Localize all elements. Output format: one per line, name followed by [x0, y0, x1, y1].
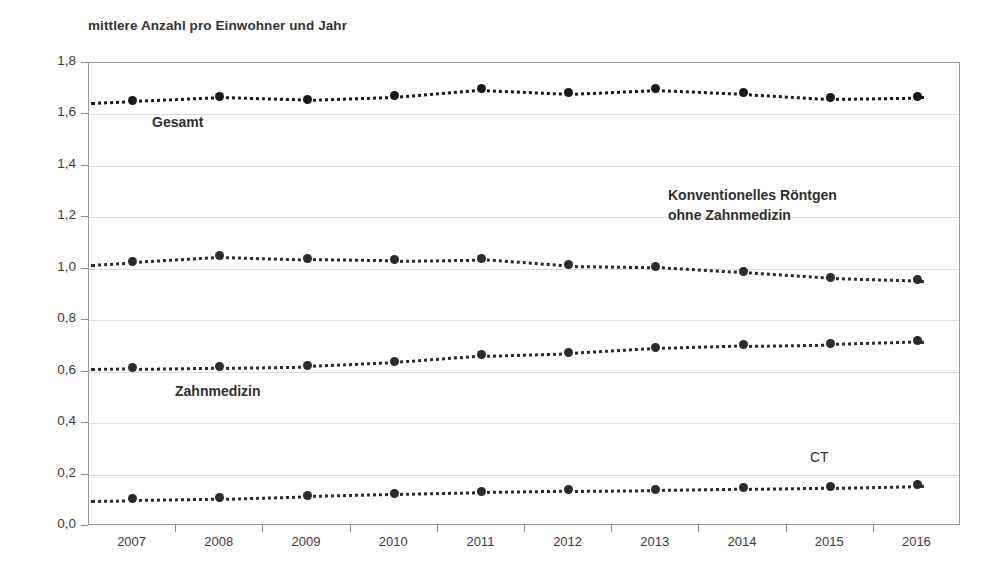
series-line-segment: [743, 487, 830, 491]
data-point: [826, 273, 835, 282]
data-point: [739, 340, 748, 349]
data-point: [913, 92, 922, 101]
series-line-segment: [830, 485, 917, 490]
series-line-segment: [91, 499, 133, 503]
data-point: [303, 254, 312, 263]
x-axis-tick-label: 2009: [266, 534, 346, 549]
y-axis-tick-mark: [81, 165, 88, 166]
series-line-segment: [830, 96, 917, 100]
y-axis-tick-mark: [81, 525, 88, 526]
series-line-segment: [830, 341, 917, 347]
series-line-segment: [481, 352, 568, 358]
series-line-segment: [917, 96, 923, 99]
data-point: [564, 88, 573, 97]
series-line-segment: [481, 258, 568, 267]
series-line-segment: [133, 367, 220, 371]
gridline: [89, 114, 959, 115]
data-point: [651, 485, 660, 494]
data-point: [826, 482, 835, 491]
series-line-segment: [133, 96, 220, 103]
data-point: [913, 480, 922, 489]
y-axis-tick-mark: [81, 422, 88, 423]
series-line-segment: [569, 89, 656, 96]
y-axis-tick-mark: [81, 474, 88, 475]
data-point: [390, 91, 399, 100]
gridline: [89, 475, 959, 476]
y-axis-tick-mark: [81, 62, 88, 63]
data-point: [913, 336, 922, 345]
data-point: [303, 361, 312, 370]
y-axis-tick-label: 1,2: [22, 207, 76, 222]
x-axis-tick-mark: [262, 525, 263, 532]
series-line-segment: [917, 485, 923, 488]
data-point: [128, 257, 137, 266]
data-point: [215, 362, 224, 371]
series-line-segment: [656, 266, 743, 274]
x-axis-tick-label: 2013: [615, 534, 695, 549]
data-point: [564, 485, 573, 494]
data-point: [215, 493, 224, 502]
plot-area: [88, 62, 960, 525]
x-axis-tick-label: 2010: [353, 534, 433, 549]
series-line-segment: [569, 489, 656, 493]
series-line-segment: [743, 271, 830, 280]
gridline: [89, 372, 959, 373]
data-point: [128, 494, 137, 503]
series-line-segment: [656, 488, 743, 492]
x-axis-tick-mark: [873, 525, 874, 532]
data-point: [739, 88, 748, 97]
series-line-segment: [656, 345, 743, 351]
x-axis-tick-mark: [350, 525, 351, 532]
series-line-segment: [307, 493, 394, 498]
series-line-segment: [917, 280, 923, 283]
data-point: [477, 350, 486, 359]
data-point: [826, 93, 835, 102]
series-line-segment: [830, 277, 917, 283]
y-axis-tick-mark: [81, 113, 88, 114]
series-line-segment: [220, 365, 307, 369]
data-point: [390, 357, 399, 366]
series-line-segment: [133, 498, 220, 502]
y-axis-tick-label: 0,2: [22, 465, 76, 480]
series-label-konventionelles-roentgen: Konventionelles Röntgen ohne Zahnmedizin: [668, 185, 837, 226]
x-axis-tick-mark: [524, 525, 525, 532]
series-line-segment: [307, 96, 394, 102]
data-point: [215, 92, 224, 101]
x-axis-tick-mark: [437, 525, 438, 532]
series-line-segment: [220, 256, 307, 262]
series-line-segment: [91, 100, 133, 105]
x-axis-tick-mark: [611, 525, 612, 532]
series-label-gesamt: Gesamt: [152, 112, 203, 132]
y-axis-tick-label: 0,6: [22, 362, 76, 377]
data-point: [739, 483, 748, 492]
y-axis-tick-label: 1,6: [22, 104, 76, 119]
series-line-segment: [917, 341, 923, 344]
chart-title: mittlere Anzahl pro Einwohner und Jahr: [88, 18, 347, 33]
gridline: [89, 166, 959, 167]
y-axis-tick-label: 1,0: [22, 259, 76, 274]
x-axis-tick-label: 2008: [179, 534, 259, 549]
x-axis-tick-mark: [175, 525, 176, 532]
x-axis-tick-label: 2015: [789, 534, 869, 549]
series-line-segment: [656, 89, 743, 96]
data-point: [651, 343, 660, 352]
data-point: [477, 487, 486, 496]
y-axis-tick-mark: [81, 371, 88, 372]
x-axis-tick-label: 2016: [876, 534, 956, 549]
x-axis-tick-label: 2012: [528, 534, 608, 549]
chart-container: mittlere Anzahl pro Einwohner und Jahr 0…: [0, 0, 1008, 582]
y-axis-tick-label: 1,4: [22, 156, 76, 171]
gridline: [89, 269, 959, 270]
series-line-segment: [394, 355, 481, 364]
x-axis-tick-mark: [698, 525, 699, 532]
x-axis-tick-label: 2007: [92, 534, 172, 549]
data-point: [215, 251, 224, 260]
series-line-segment: [481, 89, 568, 96]
gridline: [89, 423, 959, 424]
series-line-segment: [394, 89, 481, 99]
series-line-segment: [220, 495, 307, 501]
series-line-segment: [394, 491, 481, 496]
data-point: [651, 84, 660, 93]
x-axis-tick-mark: [786, 525, 787, 532]
series-label-ct: CT: [810, 447, 829, 467]
